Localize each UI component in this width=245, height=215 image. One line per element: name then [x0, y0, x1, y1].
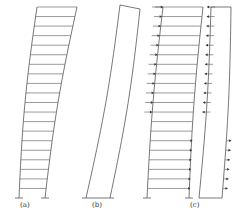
panel-b-wall: [82, 5, 140, 198]
panel-a-shear-frame: [15, 7, 77, 198]
diagram-canvas: (a) (b) (c): [0, 0, 245, 215]
label-c: (c): [190, 201, 199, 209]
frame-diagram-svg: [0, 0, 245, 215]
label-b: (b): [92, 201, 102, 209]
label-a: (a): [20, 201, 30, 209]
panel-c-interaction: [143, 6, 231, 198]
